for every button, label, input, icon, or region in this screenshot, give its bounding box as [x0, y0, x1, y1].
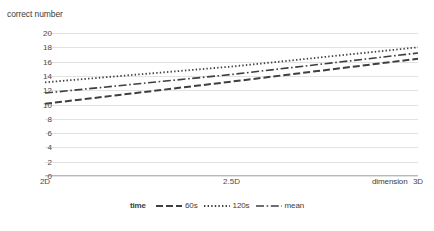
series-layer [45, 33, 418, 176]
legend-label: 60s [185, 201, 198, 210]
y-axis-tick-label: 18 [28, 43, 52, 52]
legend-swatch-dashed-icon [156, 202, 182, 210]
y-axis-tick-label: 20 [28, 29, 52, 38]
legend-title: time [130, 201, 146, 210]
y-axis-tick-label: 14 [28, 71, 52, 80]
chart-figure: correct number 20181614121086420 2D2.5D3… [0, 0, 434, 231]
y-axis-tick-label: 6 [28, 129, 52, 138]
y-axis-tick-label: 2 [28, 157, 52, 166]
x-axis-tick-label: 3D [413, 177, 423, 186]
chart-legend: time 60s120smean [0, 201, 434, 210]
series-line-mean [45, 53, 418, 93]
x-axis-tick-label: 2D [40, 177, 50, 186]
legend-label: 120s [233, 201, 250, 210]
y-axis-tick-label: 12 [28, 86, 52, 95]
legend-entry-mean[interactable]: mean [256, 201, 305, 210]
x-axis-title: dimension [372, 177, 408, 186]
legend-label: mean [285, 201, 305, 210]
y-axis-tick-label: 16 [28, 57, 52, 66]
y-axis-title: correct number [7, 9, 63, 19]
y-axis-tick-label: 10 [28, 100, 52, 109]
y-axis-tick-label: 8 [28, 114, 52, 123]
legend-swatch-dotted-icon [204, 202, 230, 210]
x-axis-tick-label: 2.5D [223, 177, 240, 186]
y-axis-tick-label: 4 [28, 143, 52, 152]
legend-entry-60s[interactable]: 60s [156, 201, 198, 210]
plot-area [45, 33, 418, 176]
series-line-60s [45, 59, 418, 104]
legend-swatch-dashdot-icon [256, 202, 282, 210]
series-line-120s [45, 47, 418, 82]
legend-entry-120s[interactable]: 120s [204, 201, 250, 210]
